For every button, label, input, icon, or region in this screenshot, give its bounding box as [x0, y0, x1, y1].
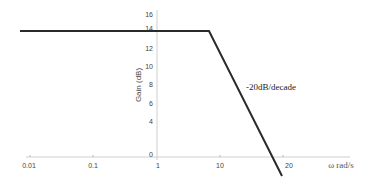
- x-tick-label: 10: [216, 162, 224, 169]
- x-tick-label: 0.1: [88, 162, 98, 169]
- y-tick-label: 12: [145, 45, 153, 52]
- x-tick-label: 1: [156, 162, 160, 169]
- y-tick-label: 8: [149, 81, 153, 88]
- y-tick-label: 0: [149, 151, 153, 158]
- y-tick-label: 16: [145, 11, 153, 18]
- x-tick-label: 0.01: [22, 162, 36, 169]
- y-axis-title: Gain (dB): [134, 68, 143, 103]
- y-tick-label: 4: [149, 118, 153, 125]
- x-tick-label: 20: [285, 162, 293, 169]
- bode-plot: 16 14 12 10 8 6 4 0 0.01 0.1 1 10 20 ω r…: [0, 0, 366, 182]
- y-tick-label: 10: [145, 63, 153, 70]
- y-tick-label: 6: [149, 100, 153, 107]
- slope-annotation: -20dB/decade: [246, 82, 296, 92]
- x-axis-unit-label: ω rad/s: [328, 160, 354, 170]
